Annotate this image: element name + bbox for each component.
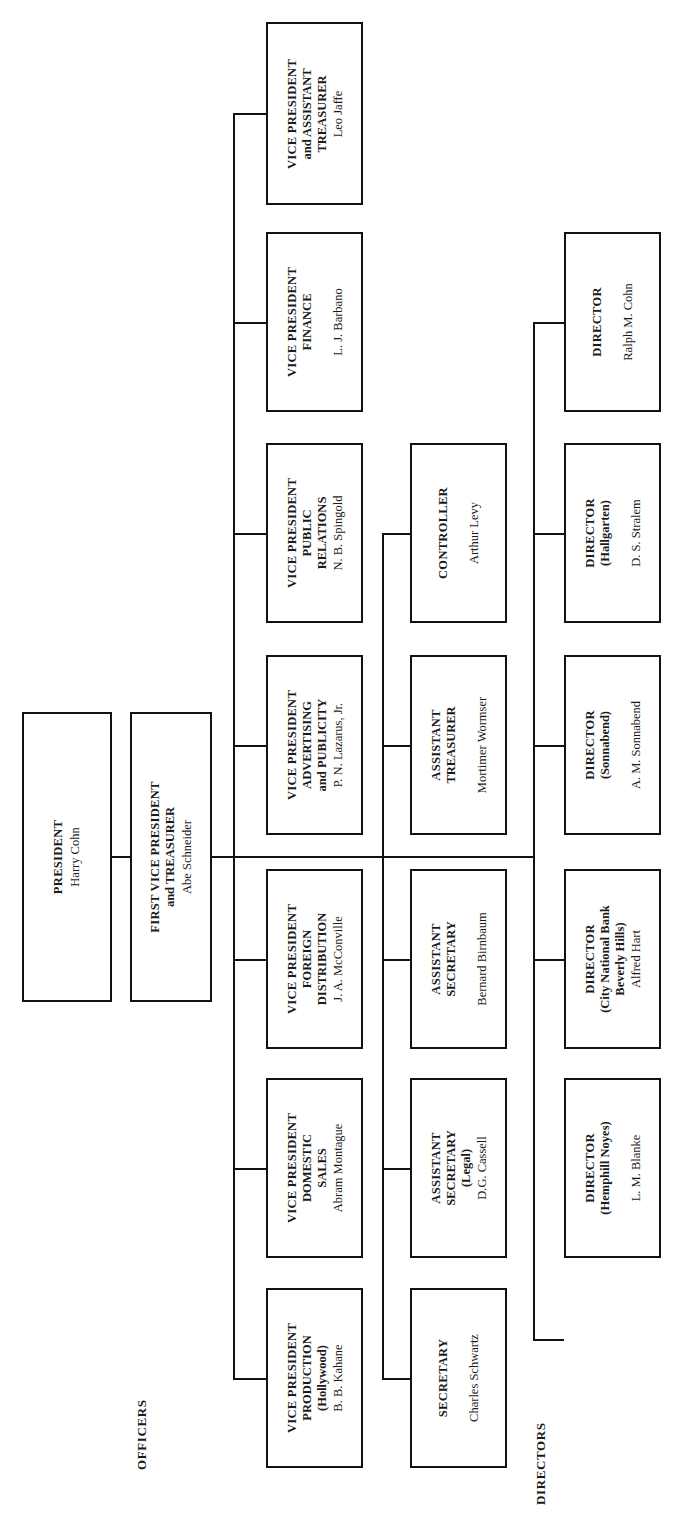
node-director-hallgarten[interactable]: DIRECTOR (Hallgarten) D. S. Stralem: [564, 443, 661, 623]
node-subtitle-1: (Hemphill Noyes): [597, 1121, 612, 1214]
node-assistant-treasurer[interactable]: ASSISTANT TREASURER Mortimer Wormser: [410, 655, 507, 835]
node-title: PRESIDENT: [51, 820, 66, 894]
node-subtitle-1: SECRETARY: [443, 1130, 458, 1206]
stub-vp-foreign: [233, 959, 266, 961]
stub-director-sonnabend: [533, 745, 564, 747]
node-person: Abram Montague: [330, 1113, 345, 1223]
node-vp-assistant-treasurer[interactable]: VICE PRESIDENT and ASSISTANT TREASURER L…: [266, 22, 363, 205]
node-subtitle-1: (Sonnabend): [597, 701, 612, 789]
stub-controller: [382, 533, 410, 535]
stub-vp-asst-treasurer: [233, 113, 266, 115]
node-title: CONTROLLER: [436, 487, 451, 579]
node-person: Mortimer Wormser: [474, 697, 489, 793]
stub-assistant-treasurer: [382, 745, 410, 747]
spine-vice-presidents-lower: [233, 856, 235, 1380]
stub-director-cohn: [533, 322, 564, 324]
node-director-city-national-bank[interactable]: DIRECTOR (City National Bank Beverly Hil…: [564, 869, 661, 1049]
spine-directors-lower: [533, 856, 535, 1339]
node-director-hemphill-noyes[interactable]: DIRECTOR (Hemphill Noyes) L. M. Blanke: [564, 1078, 661, 1258]
node-person: Arthur Levy: [467, 487, 482, 579]
node-subtitle-1: and TREASURER: [163, 781, 178, 932]
node-subtitle-1: and ASSISTANT: [299, 58, 314, 168]
node-controller[interactable]: CONTROLLER Arthur Levy: [410, 443, 507, 623]
node-title: FIRST VICE PRESIDENT: [148, 781, 163, 932]
stub-assistant-secretary: [382, 959, 410, 961]
stub-vp-production: [233, 1378, 266, 1380]
node-person: D.G. Cassell: [474, 1130, 489, 1206]
node-person: L. J. Barbano: [330, 267, 345, 377]
org-chart-canvas: PRESIDENT Harry Cohn FIRST VICE PRESIDEN…: [0, 0, 694, 1517]
stub-director-citybank: [533, 959, 564, 961]
connector-firstvp-trunk: [212, 856, 534, 858]
node-person: L. M. Blanke: [628, 1121, 643, 1214]
node-vp-domestic-sales[interactable]: VICE PRESIDENT DOMESTIC SALES Abram Mont…: [266, 1078, 363, 1258]
node-subtitle-1: FINANCE: [299, 267, 314, 377]
node-person: P. N. Lazarus, Jr.: [330, 690, 345, 800]
node-person: Leo Jaffe: [330, 58, 345, 168]
node-person: B. B. Kahane: [330, 1323, 345, 1433]
node-subtitle-1: DOMESTIC: [299, 1113, 314, 1223]
node-subtitle-1: FOREIGN: [299, 904, 314, 1014]
node-subtitle-1: (Hallgarten): [597, 498, 612, 568]
node-person: Charles Schwartz: [467, 1334, 482, 1422]
node-person: Alfred Hart: [628, 905, 643, 1013]
node-first-vice-president[interactable]: FIRST VICE PRESIDENT and TREASURER Abe S…: [130, 712, 212, 1002]
node-subtitle-2: DISTRIBUTION: [314, 904, 329, 1014]
node-subtitle-2: RELATIONS: [314, 478, 329, 588]
node-title: SECRETARY: [436, 1334, 451, 1422]
caption-officers: OFFICERS: [134, 1399, 150, 1470]
stub-vp-public-relations: [233, 533, 266, 535]
node-title: ASSISTANT: [428, 912, 443, 1005]
node-assistant-secretary-legal[interactable]: ASSISTANT SECRETARY (Legal) D.G. Cassell: [410, 1078, 507, 1258]
node-title: VICE PRESIDENT: [284, 1323, 299, 1433]
node-title: VICE PRESIDENT: [284, 267, 299, 377]
stub-vp-finance: [233, 322, 266, 324]
node-person: Abe Schneider: [179, 781, 194, 932]
spine-officer-staff: [382, 533, 384, 858]
spine-directors: [533, 322, 535, 858]
node-person: N. B. Spingold: [330, 478, 345, 588]
node-subtitle-2: Beverly Hills): [612, 905, 627, 1013]
node-subtitle-1: (City National Bank: [597, 905, 612, 1013]
node-title: VICE PRESIDENT: [284, 1113, 299, 1223]
node-subtitle-2: and PUBLICITY: [314, 690, 329, 800]
node-vp-advertising-publicity[interactable]: VICE PRESIDENT ADVERTISING and PUBLICITY…: [266, 655, 363, 835]
node-person: A. M. Sonnabend: [628, 701, 643, 789]
node-title: DIRECTOR: [582, 701, 597, 789]
node-person: Bernard Birnbaum: [474, 912, 489, 1005]
node-vp-production-hollywood[interactable]: VICE PRESIDENT PRODUCTION (Hollywood) B.…: [266, 1288, 363, 1468]
node-subtitle-1: PRODUCTION: [299, 1323, 314, 1433]
node-title: DIRECTOR: [582, 498, 597, 568]
node-director-ralph-cohn[interactable]: DIRECTOR Ralph M. Cohn: [564, 232, 661, 412]
node-person: D. S. Stralem: [628, 498, 643, 568]
stub-vp-advertising: [233, 745, 266, 747]
node-title: DIRECTOR: [582, 905, 597, 1013]
node-subtitle-1: ADVERTISING: [299, 690, 314, 800]
node-subtitle-1: PUBLIC: [299, 478, 314, 588]
node-subtitle-2: (Legal): [458, 1130, 473, 1206]
node-subtitle-1: TREASURER: [443, 697, 458, 793]
node-title: VICE PRESIDENT: [284, 478, 299, 588]
node-subtitle-2: SALES: [314, 1113, 329, 1223]
node-director-sonnabend[interactable]: DIRECTOR (Sonnabend) A. M. Sonnabend: [564, 655, 661, 835]
node-subtitle-1: SECRETARY: [443, 912, 458, 1005]
node-title: DIRECTOR: [582, 1121, 597, 1214]
node-title: VICE PRESIDENT: [284, 690, 299, 800]
node-vp-foreign-distribution[interactable]: VICE PRESIDENT FOREIGN DISTRIBUTION J. A…: [266, 869, 363, 1049]
node-subtitle-2: TREASURER: [314, 58, 329, 168]
spine-officer-staff-lower: [382, 856, 384, 1378]
node-title: ASSISTANT: [428, 697, 443, 793]
node-assistant-secretary[interactable]: ASSISTANT SECRETARY Bernard Birnbaum: [410, 869, 507, 1049]
node-vp-public-relations[interactable]: VICE PRESIDENT PUBLIC RELATIONS N. B. Sp…: [266, 443, 363, 623]
node-vp-finance[interactable]: VICE PRESIDENT FINANCE L. J. Barbano: [266, 232, 363, 412]
node-person: Harry Cohn: [68, 820, 83, 894]
node-secretary[interactable]: SECRETARY Charles Schwartz: [410, 1288, 507, 1468]
node-title: VICE PRESIDENT: [284, 58, 299, 168]
stub-assistant-secretary-legal: [382, 1168, 410, 1170]
node-president[interactable]: PRESIDENT Harry Cohn: [22, 712, 112, 1002]
node-title: ASSISTANT: [428, 1130, 443, 1206]
stub-director-hemphill: [533, 1339, 564, 1341]
node-person: Ralph M. Cohn: [621, 283, 636, 360]
stub-director-hallgarten: [533, 533, 564, 535]
node-subtitle-2: (Hollywood): [314, 1323, 329, 1433]
